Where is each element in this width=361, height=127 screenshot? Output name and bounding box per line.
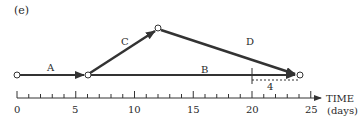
tick-label-5: 5 [72, 104, 78, 115]
panel-label: (e) [14, 4, 29, 17]
network-diagram: (e) A B C D 4 0 5 10 15 20 25 TIME [0, 0, 361, 127]
time-axis: 0 5 10 15 20 25 TIME (days) [14, 91, 358, 116]
axis-ticks [17, 91, 311, 98]
axis-title: TIME [326, 93, 354, 104]
activity-b-label: B [201, 64, 208, 75]
tick-label-0: 0 [14, 104, 20, 115]
activity-b: B [91, 64, 295, 75]
activity-d-arrow [161, 30, 295, 74]
tick-label-20: 20 [246, 104, 259, 115]
tick-label-15: 15 [187, 104, 200, 115]
activity-c: C [90, 31, 155, 73]
activity-d-label: D [246, 36, 254, 47]
activity-a: A [20, 62, 84, 75]
node-start [14, 72, 20, 78]
float-label: 4 [267, 81, 273, 92]
activity-d: D [161, 30, 295, 74]
axis-unit: (days) [327, 105, 358, 116]
tick-label-25: 25 [305, 104, 318, 115]
node-day-12 [155, 25, 161, 31]
node-day-6 [85, 72, 91, 78]
activity-a-label: A [46, 62, 55, 73]
tick-label-10: 10 [128, 104, 141, 115]
node-end [297, 72, 303, 78]
activity-c-label: C [121, 36, 129, 47]
